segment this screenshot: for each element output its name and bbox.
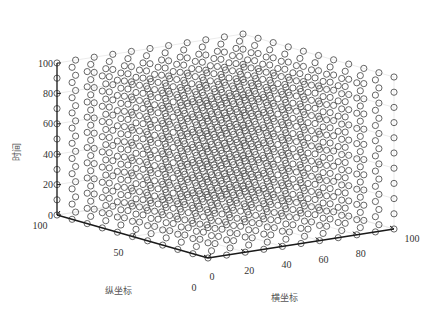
data-point bbox=[189, 66, 195, 72]
data-point bbox=[84, 69, 90, 75]
data-point bbox=[354, 156, 360, 162]
data-point bbox=[339, 121, 345, 127]
data-point bbox=[282, 51, 288, 57]
data-point bbox=[229, 53, 235, 59]
data-point bbox=[192, 74, 198, 80]
data-point bbox=[88, 77, 94, 83]
data-point bbox=[118, 161, 124, 167]
data-point bbox=[327, 186, 333, 192]
y-tick-label: 50 bbox=[114, 247, 124, 258]
data-point bbox=[293, 78, 299, 84]
data-point bbox=[342, 175, 348, 181]
data-point bbox=[376, 115, 382, 121]
data-point bbox=[305, 196, 311, 202]
data-point bbox=[324, 132, 330, 138]
data-point bbox=[133, 196, 139, 202]
data-point bbox=[114, 138, 120, 144]
data-point bbox=[263, 69, 269, 75]
data-point bbox=[152, 87, 158, 93]
data-point bbox=[255, 50, 261, 56]
data-point bbox=[136, 173, 142, 179]
data-point bbox=[215, 233, 221, 239]
data-point bbox=[342, 159, 348, 165]
data-point bbox=[103, 187, 109, 193]
data-point bbox=[372, 198, 378, 204]
data-point bbox=[170, 84, 176, 90]
data-point bbox=[283, 221, 289, 227]
data-point bbox=[372, 183, 378, 189]
data-point bbox=[88, 168, 94, 174]
data-point bbox=[106, 180, 112, 186]
z-tick-label: 80 bbox=[43, 88, 53, 99]
data-point bbox=[263, 54, 269, 60]
data-point bbox=[357, 225, 363, 231]
data-point bbox=[106, 195, 112, 201]
data-point bbox=[136, 158, 142, 164]
data-point bbox=[290, 191, 296, 197]
data-point bbox=[177, 54, 183, 60]
data-point bbox=[361, 202, 367, 208]
data-point bbox=[305, 135, 311, 141]
data-point bbox=[69, 110, 75, 116]
data-point bbox=[133, 165, 139, 171]
data-point bbox=[320, 78, 326, 84]
data-point bbox=[118, 207, 124, 213]
data-point bbox=[324, 193, 330, 199]
data-point bbox=[357, 88, 363, 94]
data-point bbox=[339, 75, 345, 81]
data-point bbox=[342, 205, 348, 211]
data-point bbox=[308, 128, 314, 134]
data-point bbox=[143, 53, 149, 59]
data-point bbox=[372, 153, 378, 159]
data-point bbox=[133, 150, 139, 156]
data-point bbox=[162, 65, 168, 71]
data-point bbox=[125, 71, 131, 77]
data-point bbox=[88, 107, 94, 113]
data-point bbox=[133, 74, 139, 80]
data-point bbox=[354, 171, 360, 177]
data-point bbox=[372, 77, 378, 83]
data-points bbox=[54, 31, 397, 261]
data-point bbox=[106, 119, 112, 125]
x-tick-label: 80 bbox=[356, 248, 366, 259]
data-point bbox=[218, 56, 224, 62]
data-point bbox=[69, 140, 75, 146]
data-point bbox=[339, 151, 345, 157]
data-point bbox=[270, 55, 276, 61]
data-point bbox=[339, 182, 345, 188]
data-point bbox=[293, 63, 299, 69]
data-point bbox=[114, 153, 120, 159]
data-point bbox=[376, 206, 382, 212]
data-point bbox=[354, 186, 360, 192]
data-point bbox=[208, 248, 214, 254]
data-point bbox=[152, 178, 158, 184]
data-point bbox=[84, 129, 90, 135]
data-point bbox=[99, 210, 105, 216]
data-point bbox=[308, 112, 314, 118]
data-point bbox=[305, 211, 311, 217]
data-point bbox=[118, 70, 124, 76]
data-point bbox=[192, 58, 198, 64]
data-point bbox=[278, 58, 284, 64]
data-point bbox=[342, 99, 348, 105]
data-point bbox=[246, 227, 252, 233]
data-point bbox=[354, 201, 360, 207]
data-point bbox=[152, 71, 158, 77]
data-point bbox=[133, 226, 139, 232]
data-point bbox=[118, 176, 124, 182]
data-point bbox=[290, 115, 296, 121]
data-point bbox=[324, 208, 330, 214]
data-point bbox=[145, 223, 151, 229]
data-point bbox=[327, 201, 333, 207]
data-point bbox=[290, 161, 296, 167]
data-point bbox=[290, 222, 296, 228]
x-tick-label: 20 bbox=[244, 265, 254, 276]
data-point bbox=[88, 213, 94, 219]
data-point bbox=[320, 124, 326, 130]
data-point bbox=[114, 123, 120, 129]
data-point bbox=[69, 95, 75, 101]
data-point bbox=[327, 216, 333, 222]
data-point bbox=[264, 224, 270, 230]
data-point bbox=[324, 147, 330, 153]
z-tick-label: 40 bbox=[43, 149, 53, 160]
